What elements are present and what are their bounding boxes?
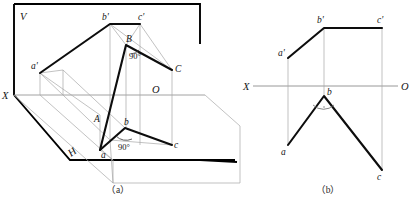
construction-A-to-aprime	[40, 73, 100, 115]
label-pictorial-A: A	[93, 114, 100, 124]
construction-cprime-to-C	[140, 24, 172, 70]
construction-h-edge-3	[205, 95, 240, 126]
label-pictorial-c-prime: c'	[138, 12, 145, 22]
label-vertical-plane: V	[20, 11, 28, 22]
label-orthographic-a-prime: a'	[278, 48, 286, 58]
label-pictorial-origin: O	[152, 84, 160, 95]
label-pictorial-a-prime: a'	[31, 61, 39, 71]
front-view-polyline	[288, 28, 382, 58]
label-angle-B: 90°	[129, 51, 141, 61]
construction-bprime-to-C	[110, 24, 172, 70]
technical-drawing-svg: V H X O a' b' c' B A C a b c 90° 90°	[0, 0, 412, 205]
label-pictorial-b: b	[124, 117, 129, 127]
construction-aprime-to-a	[40, 73, 110, 140]
label-orthographic-x-axis: X	[242, 81, 250, 92]
label-orthographic-c-prime: c'	[377, 15, 384, 25]
label-orthographic-origin: O	[401, 81, 409, 92]
label-orthographic-c: c	[377, 172, 382, 182]
label-angle-b: 90°	[118, 142, 130, 152]
caption-a: （a）	[106, 184, 130, 195]
label-pictorial-b-prime: b'	[102, 12, 110, 22]
caption-b: （b）	[316, 184, 341, 195]
label-pictorial-c: c	[174, 140, 179, 150]
construction-a-vert	[110, 140, 113, 183]
vertical-plane-border-top	[14, 4, 200, 44]
label-pictorial-C: C	[175, 64, 182, 74]
label-pictorial-a: a	[101, 150, 106, 160]
top-view-polyline	[288, 96, 382, 170]
orthographic-diagram: X O a' b' c' a b c	[242, 15, 409, 182]
right-angle-arc-b	[116, 136, 132, 140]
label-orthographic-b: b	[327, 87, 332, 97]
label-orthographic-a: a	[281, 147, 286, 157]
right-angle-dot-b	[323, 106, 324, 107]
label-pictorial-x-axis: X	[1, 90, 9, 101]
figure-root: V H X O a' b' c' B A C a b c 90° 90°	[0, 0, 412, 205]
label-pictorial-B: B	[126, 34, 132, 44]
construction-h-edge-1	[14, 95, 113, 183]
label-orthographic-b-prime: b'	[317, 15, 325, 25]
pictorial-diagram: V H X O a' b' c' B A C a b c 90° 90°	[1, 4, 240, 183]
